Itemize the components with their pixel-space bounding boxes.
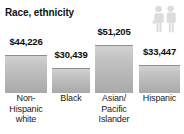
bar-group-non-hispanic-white: $44,226 Non- Hispanic white — [5, 36, 47, 134]
bar-category-label: Hispanic — [135, 93, 184, 104]
bar-category-label: Black — [48, 93, 94, 104]
chart-title: Race, ethnicity — [5, 7, 74, 18]
bar-category-label: Non- Hispanic white — [1, 93, 51, 125]
bar-category-line: Pacific — [91, 104, 137, 115]
bar-rect — [52, 68, 90, 93]
bar-category-line: Islander — [91, 114, 137, 125]
bar-category-line: Asian/ — [91, 93, 137, 104]
bar-category-line: Non- — [1, 93, 51, 104]
bar-rect — [139, 65, 180, 93]
race-ethnicity-bar-chart: Race, ethnicity $44,226 Non- Hispanic wh… — [0, 0, 184, 134]
bar-value-label: $51,205 — [98, 26, 131, 37]
two-people-icon — [147, 2, 181, 36]
bar-rect — [95, 45, 133, 93]
bar-category-line: white — [1, 114, 51, 125]
bar-category-label: Asian/ Pacific Islander — [91, 93, 137, 125]
bar-value-label: $44,226 — [10, 36, 43, 47]
bar-group-hispanic: $33,447 Hispanic — [139, 36, 180, 134]
bar-category-line: Hispanic — [1, 104, 51, 115]
bar-group-black: $30,439 Black — [52, 36, 90, 134]
bar-rect — [5, 55, 47, 93]
plot-area: $44,226 Non- Hispanic white $30,439 Blac… — [0, 36, 184, 134]
bar-group-asian-pacific-islander: $51,205 Asian/ Pacific Islander — [95, 36, 133, 134]
bar-category-line: Hispanic — [135, 93, 184, 104]
bar-value-label: $30,439 — [55, 49, 88, 60]
bar-category-line: Black — [48, 93, 94, 104]
bar-value-label: $33,447 — [143, 46, 176, 57]
